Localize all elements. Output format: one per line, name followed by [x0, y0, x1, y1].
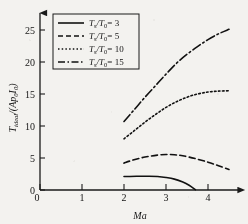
curve-ts-t0-5 — [124, 154, 229, 169]
y-title-mid: /(Ap — [7, 97, 19, 115]
curve-ts-t0-15 — [124, 29, 229, 121]
x-axis-title: Ma — [132, 210, 146, 221]
y-axis-title: Tideal/(Ap0I0) — [7, 83, 19, 133]
x-tick-4: 4 — [206, 192, 211, 203]
x-tick-3: 3 — [164, 192, 169, 203]
y-title-sub-ideal: ideal — [12, 114, 19, 127]
legend: Ts/T0= 3 Ts/T0= 5 Ts/T0= 10 Ts/T0= 15 — [53, 14, 139, 69]
y-tick-20: 20 — [25, 57, 35, 68]
y-tick-10: 10 — [25, 121, 35, 132]
y-tick-25: 25 — [25, 25, 35, 36]
y-title-close: ) — [7, 83, 19, 88]
y-tick-15: 15 — [25, 89, 35, 100]
series-group — [124, 29, 229, 189]
svg-text:Tideal/(Ap0I0): Tideal/(Ap0I0) — [7, 83, 19, 133]
figure-container: 0 1 2 3 4 Ma 0 5 10 15 20 25 Tideal/(Ap0… — [0, 0, 248, 224]
axis-x: 0 1 2 3 4 Ma — [35, 184, 239, 221]
x-tick-1: 1 — [80, 192, 85, 203]
axis-y: 0 5 10 15 20 25 Tideal/(Ap0I0) — [7, 13, 45, 196]
x-tick-2: 2 — [122, 192, 127, 203]
y-tick-5: 5 — [30, 153, 35, 164]
curve-ts-t0-3 — [124, 176, 195, 189]
chart-svg: 0 1 2 3 4 Ma 0 5 10 15 20 25 Tideal/(Ap0… — [0, 0, 248, 224]
curve-ts-t0-10 — [124, 91, 229, 139]
x-tick-0: 0 — [35, 192, 40, 203]
y-tick-0: 0 — [30, 185, 35, 196]
